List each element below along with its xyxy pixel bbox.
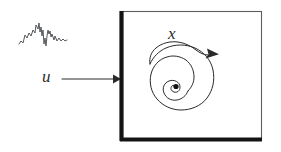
state-trajectory-label: x bbox=[168, 25, 176, 42]
input-arrow bbox=[62, 75, 121, 84]
plant-box bbox=[120, 11, 262, 141]
input-signal-label: u bbox=[42, 68, 51, 85]
state-trajectory-spiral bbox=[150, 42, 219, 110]
input-signal-waveform-icon bbox=[19, 23, 67, 46]
figure-root: u x bbox=[0, 0, 281, 152]
